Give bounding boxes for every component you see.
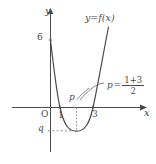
x-axis xyxy=(12,105,147,111)
math-figure-parabola: y x O 1 3 6 q p y=f(x) p = 1+3 2 xyxy=(0,0,156,164)
x-tick-label-3: 3 xyxy=(92,110,98,119)
p-formula-numerator: 1+3 xyxy=(123,76,143,85)
y-axis-label: y xyxy=(45,6,51,16)
y-tick-label-6: 6 xyxy=(37,33,43,42)
p-callout-leader-line xyxy=(80,83,104,100)
p-vertex-pointer-line xyxy=(77,88,89,100)
p-formula-denominator: 2 xyxy=(130,87,137,96)
vertex-x-label-p: p xyxy=(69,93,75,102)
x-tick-label-1: 1 xyxy=(58,111,64,120)
p-formula-variable: p xyxy=(107,81,113,90)
x-axis-label: x xyxy=(144,108,150,118)
p-formula-callout: p = 1+3 2 xyxy=(107,76,144,96)
p-formula-equals: = xyxy=(114,81,122,90)
p-formula-fraction: 1+3 2 xyxy=(122,76,144,96)
vertex-y-label-q: q xyxy=(38,124,44,133)
origin-label: O xyxy=(41,110,48,119)
function-label: y=f(x) xyxy=(85,13,115,23)
